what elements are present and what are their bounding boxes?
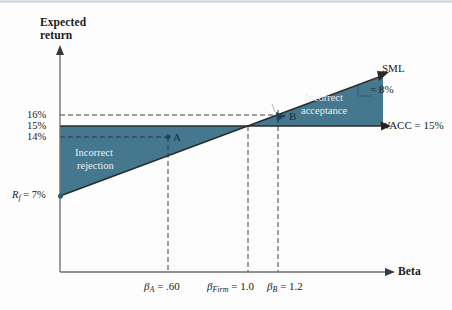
point-b-label: B xyxy=(289,110,296,122)
incorrect-acceptance-label-line2: acceptance xyxy=(301,105,347,118)
y-tick-16pct: 16% xyxy=(27,109,46,120)
x-tick-beta-firm: βFirm = 1.0 xyxy=(207,280,254,294)
incorrect-rejection-label-line1: Incorrect xyxy=(75,147,113,160)
rf-value: = 7% xyxy=(21,189,46,200)
rf-label: Rf = 7% xyxy=(12,189,46,202)
x-axis-title: Beta xyxy=(398,265,421,277)
annotation-tick xyxy=(272,104,275,112)
x-tick-beta-b: βB = 1.2 xyxy=(267,280,303,294)
x-tick-beta-a: βA = .60 xyxy=(144,280,180,294)
incorrect-rejection-label-line2: rejection xyxy=(77,160,114,173)
point-a-marker[interactable] xyxy=(166,135,171,140)
beta-firm-value: = 1.0 xyxy=(228,280,253,292)
beta-b-value: = 1.2 xyxy=(277,280,302,292)
sml-label: SML xyxy=(382,62,405,74)
wacc-label: WACC = 15% xyxy=(380,119,444,131)
rf-point-marker xyxy=(58,193,63,198)
slope-label: = 8% xyxy=(370,83,394,95)
sml-diagram-svg xyxy=(0,0,452,310)
beta-firm-subscript: Firm xyxy=(212,285,228,294)
y-tick-15pct: 15% xyxy=(27,120,46,131)
y-axis-title-line1: Expected xyxy=(40,16,86,28)
y-axis-title-line2: return xyxy=(40,29,72,41)
beta-a-value: = .60 xyxy=(154,280,179,292)
y-axis-arrowhead xyxy=(56,45,64,55)
x-axis-arrowhead xyxy=(385,268,395,276)
incorrect-acceptance-label-line1: Incorrect xyxy=(305,92,343,105)
y-tick-14pct: 14% xyxy=(27,131,46,142)
point-a-label: A xyxy=(173,131,181,143)
figure-canvas: Expected return Beta 16% 15% 14% Rf = 7%… xyxy=(0,0,452,310)
